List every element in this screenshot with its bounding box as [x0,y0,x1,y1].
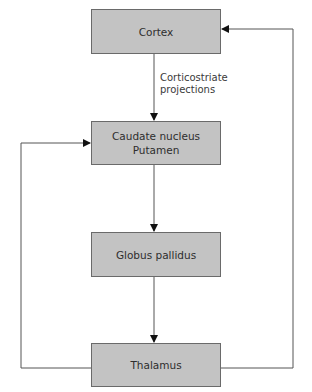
node-label: Globus pallidus [116,248,196,262]
edge-thalamus-to-caudate [21,143,91,368]
node-caudate-putamen: Caudate nucleus Putamen [91,121,221,165]
edge-label-corticostriate: Corticostriate projections [160,72,228,96]
edge-thalamus-to-cortex [221,29,293,368]
connector-lines [0,0,312,392]
node-globus-pallidus: Globus pallidus [91,232,221,277]
node-thalamus: Thalamus [91,343,221,387]
node-label: Cortex [139,25,174,39]
node-label: Caudate nucleus [112,129,200,143]
edge-label-line: projections [160,84,228,96]
node-cortex: Cortex [91,9,221,54]
edge-label-line: Corticostriate [160,72,228,84]
node-label: Thalamus [130,358,181,372]
node-label: Putamen [133,143,180,157]
